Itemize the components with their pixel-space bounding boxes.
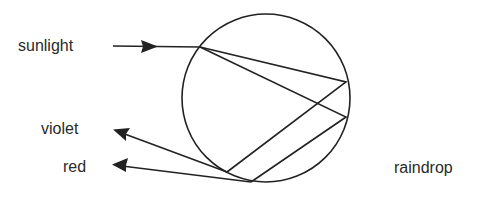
violet-internal-ray (200, 47, 346, 172)
raindrop-diagram: sunlight violet red raindrop (0, 0, 504, 197)
outgoing-violet-ray (113, 128, 227, 172)
violet-label: violet (41, 120, 79, 137)
red-internal-ray (200, 47, 346, 182)
red-arrow-icon (112, 158, 128, 172)
raindrop-label: raindrop (394, 159, 453, 176)
sunlight-label: sunlight (18, 37, 74, 54)
internal-rays (200, 47, 346, 182)
sunlight-arrow-icon (141, 40, 158, 53)
incoming-sunlight-ray (113, 40, 200, 53)
red-label: red (63, 158, 86, 175)
